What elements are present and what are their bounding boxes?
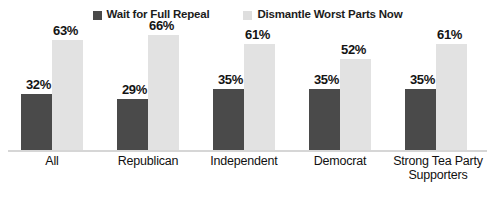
x-axis-label-line: Republican bbox=[118, 154, 179, 168]
chart-legend: Wait for Full Repeal Dismantle Worst Par… bbox=[0, 6, 495, 24]
x-axis-category-labels: All Republican Independent Democrat Stro… bbox=[0, 154, 495, 200]
bar-value-label: 61% bbox=[245, 28, 270, 41]
bar-group-independent: 35% 61% bbox=[200, 28, 288, 150]
bar-value-label: 63% bbox=[53, 24, 78, 37]
bar-value-label: 32% bbox=[26, 78, 51, 91]
bar-value-label: 35% bbox=[314, 73, 339, 86]
bar-group-republican: 29% 66% bbox=[104, 28, 192, 150]
bar-wait-for-full-repeal[interactable] bbox=[213, 89, 244, 150]
bar-dismantle-worst-parts-now[interactable] bbox=[52, 40, 83, 150]
bar-value-label: 35% bbox=[410, 73, 435, 86]
x-axis-label-democrat: Democrat bbox=[296, 154, 384, 168]
bar-wait-for-full-repeal[interactable] bbox=[21, 94, 52, 150]
bar-value-label: 35% bbox=[218, 73, 243, 86]
x-axis-line bbox=[8, 150, 487, 152]
x-axis-label-all: All bbox=[8, 154, 96, 168]
bar-value-label: 29% bbox=[122, 83, 147, 96]
dark-square-icon bbox=[93, 11, 102, 20]
bar-group-democrat: 35% 52% bbox=[296, 28, 384, 150]
bar-wrap-dismantle-independent: 61% bbox=[244, 28, 275, 150]
bar-value-label: 66% bbox=[149, 19, 174, 32]
x-axis-label-line: All bbox=[45, 154, 58, 168]
chart-plot-area: 32% 63% 29% 66% 35% bbox=[0, 28, 495, 152]
bar-dismantle-worst-parts-now[interactable] bbox=[244, 44, 275, 150]
x-axis-label-strong-tea-party-supporters: Strong Tea Party Supporters bbox=[386, 154, 490, 182]
bar-wrap-wait-strong-tea-party: 35% bbox=[405, 28, 436, 150]
bar-wrap-wait-independent: 35% bbox=[213, 28, 244, 150]
x-axis-label-republican: Republican bbox=[104, 154, 192, 168]
bar-wrap-dismantle-all: 63% bbox=[52, 28, 83, 150]
bar-dismantle-worst-parts-now[interactable] bbox=[340, 59, 371, 150]
bar-wrap-wait-all: 32% bbox=[21, 28, 52, 150]
x-axis-label-line: Independent bbox=[210, 154, 277, 168]
x-axis-label-independent: Independent bbox=[198, 154, 290, 168]
bar-group-all: 32% 63% bbox=[8, 28, 96, 150]
x-axis-label-line: Supporters bbox=[408, 168, 467, 182]
light-square-icon bbox=[243, 11, 252, 20]
bar-value-label: 61% bbox=[437, 28, 462, 41]
x-axis-label-line: Democrat bbox=[314, 154, 367, 168]
bar-wrap-wait-democrat: 35% bbox=[309, 28, 340, 150]
bar-wait-for-full-repeal[interactable] bbox=[309, 89, 340, 150]
bar-dismantle-worst-parts-now[interactable] bbox=[436, 44, 467, 150]
bar-dismantle-worst-parts-now[interactable] bbox=[148, 35, 179, 150]
bar-wait-for-full-repeal[interactable] bbox=[405, 89, 436, 150]
bar-wait-for-full-repeal[interactable] bbox=[117, 99, 148, 150]
bar-group-strong-tea-party-supporters: 35% 61% bbox=[392, 28, 480, 150]
legend-item-dismantle-worst-parts-now: Dismantle Worst Parts Now bbox=[243, 9, 402, 21]
x-axis-label-line: Strong Tea Party bbox=[393, 154, 483, 168]
bar-wrap-dismantle-democrat: 52% bbox=[340, 28, 371, 150]
bar-wrap-wait-republican: 29% bbox=[117, 28, 148, 150]
bar-wrap-dismantle-strong-tea-party: 61% bbox=[436, 28, 467, 150]
bar-wrap-dismantle-republican: 66% bbox=[148, 28, 179, 150]
bar-value-label: 52% bbox=[341, 43, 366, 56]
legend-item-label: Dismantle Worst Parts Now bbox=[257, 9, 402, 21]
